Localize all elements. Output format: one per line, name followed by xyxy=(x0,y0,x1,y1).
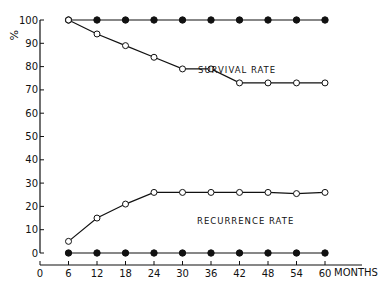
y-tick-label: 0 xyxy=(32,248,38,259)
filled-data-point xyxy=(236,17,242,23)
y-tick-label: 80 xyxy=(25,61,38,72)
x-tick-label: 24 xyxy=(148,268,161,279)
filled-data-point xyxy=(293,250,299,256)
open-data-point xyxy=(66,17,72,23)
open-data-point xyxy=(208,189,214,195)
open-data-point xyxy=(94,215,100,221)
y-tick-label: 30 xyxy=(25,178,38,189)
y-tick-label: 100 xyxy=(19,15,38,26)
filled-data-point xyxy=(122,250,128,256)
filled-data-point xyxy=(94,17,100,23)
x-tick-label: 30 xyxy=(176,268,189,279)
open-data-point xyxy=(123,201,129,207)
x-tick-label: 18 xyxy=(119,268,132,279)
x-tick-label: 60 xyxy=(319,268,332,279)
filled-data-point xyxy=(236,250,242,256)
survival-rate-annotation: SURVIVAL RATE xyxy=(198,65,276,75)
filled-data-point xyxy=(208,17,214,23)
filled-data-point xyxy=(208,250,214,256)
open-data-point xyxy=(180,189,186,195)
series-line xyxy=(69,20,326,83)
x-tick-label: 54 xyxy=(290,268,303,279)
x-tick-label: 6 xyxy=(65,268,71,279)
x-tick-label: 42 xyxy=(233,268,246,279)
open-data-point xyxy=(322,189,328,195)
x-axis-unit-label: MONTHS xyxy=(334,267,378,278)
y-tick-label: 70 xyxy=(25,84,38,95)
filled-data-point xyxy=(94,250,100,256)
filled-data-point xyxy=(122,17,128,23)
open-data-point xyxy=(265,80,271,86)
open-data-point xyxy=(237,80,243,86)
open-data-point xyxy=(294,191,300,197)
filled-data-point xyxy=(65,250,71,256)
y-tick-label: 20 xyxy=(25,201,38,212)
open-data-point xyxy=(94,31,100,37)
y-tick-label: 60 xyxy=(25,108,38,119)
y-tick-label: 50 xyxy=(25,131,38,142)
y-tick-label: 90 xyxy=(25,38,38,49)
filled-data-point xyxy=(265,250,271,256)
filled-data-point xyxy=(265,17,271,23)
open-data-point xyxy=(151,189,157,195)
x-tick-label: 48 xyxy=(262,268,275,279)
filled-data-point xyxy=(151,250,157,256)
filled-data-point xyxy=(151,17,157,23)
filled-data-point xyxy=(322,17,328,23)
filled-data-point xyxy=(293,17,299,23)
open-data-point xyxy=(123,43,129,49)
open-data-point xyxy=(237,189,243,195)
y-axis-unit-label: % xyxy=(7,30,20,40)
filled-data-point xyxy=(179,17,185,23)
filled-data-point xyxy=(322,250,328,256)
x-tick-label: 0 xyxy=(37,268,43,279)
x-tick-label: 12 xyxy=(91,268,104,279)
y-tick-label: 10 xyxy=(25,224,38,235)
filled-data-point xyxy=(179,250,185,256)
open-data-point xyxy=(265,189,271,195)
open-data-point xyxy=(151,54,157,60)
open-data-point xyxy=(322,80,328,86)
open-data-point xyxy=(180,66,186,72)
open-data-point xyxy=(294,80,300,86)
y-tick-label: 40 xyxy=(25,154,38,165)
line-chart: 0102030405060708090100061218243036424854… xyxy=(0,0,383,290)
open-data-point xyxy=(66,238,72,244)
x-tick-label: 36 xyxy=(205,268,218,279)
recurrence-rate-annotation: RECURRENCE RATE xyxy=(197,216,294,226)
